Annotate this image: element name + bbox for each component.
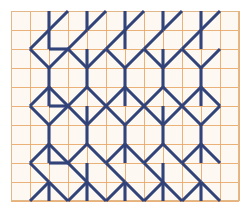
stitch-pattern-diagram	[0, 0, 245, 216]
chart-surface	[0, 0, 245, 216]
pattern-chart-page	[0, 0, 245, 216]
